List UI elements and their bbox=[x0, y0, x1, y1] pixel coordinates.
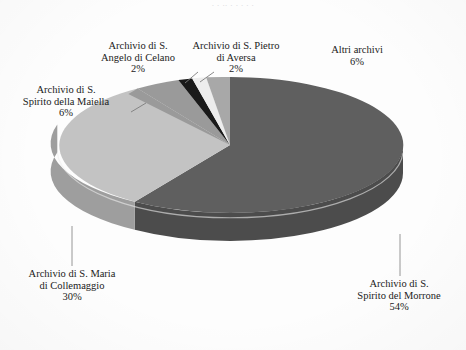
page-canvas: . . .. . . . . . bbox=[0, 0, 466, 350]
slice-label-collemaggio: Archivio di S. Maria di Collemaggio 30% bbox=[7, 268, 137, 303]
slice-label-maiella: Archivio di S. Spirito della Maiella 6% bbox=[2, 84, 130, 119]
slice-label-maiella-pct: 6% bbox=[2, 107, 130, 119]
slice-label-morrone-line1: Archivio di S. bbox=[333, 278, 465, 290]
slice-label-altri-pct: 6% bbox=[295, 56, 419, 68]
slice-label-maiella-line1: Archivio di S. bbox=[2, 84, 130, 96]
slice-label-aversa-line2: di Aversa bbox=[173, 52, 299, 64]
slice-label-morrone-pct: 54% bbox=[333, 301, 465, 313]
slice-label-morrone-line2: Spirito del Morrone bbox=[333, 290, 465, 302]
slice-label-altri-line1: Altri archivi bbox=[295, 44, 419, 56]
slice-label-aversa: Archivio di S. Pietro di Aversa 2% bbox=[173, 40, 299, 75]
slice-label-collemaggio-line2: di Collemaggio bbox=[7, 280, 137, 292]
slice-label-aversa-pct: 2% bbox=[173, 63, 299, 75]
slice-label-collemaggio-pct: 30% bbox=[7, 291, 137, 303]
slice-label-maiella-line2: Spirito della Maiella bbox=[2, 96, 130, 108]
slice-label-morrone: Archivio di S. Spirito del Morrone 54% bbox=[333, 278, 465, 313]
slice-label-aversa-line1: Archivio di S. Pietro bbox=[173, 40, 299, 52]
pie-chart: Archivio di S. Angelo di Celano 2% Archi… bbox=[0, 0, 466, 350]
slice-label-altri: Altri archivi 6% bbox=[295, 44, 419, 67]
slice-label-collemaggio-line1: Archivio di S. Maria bbox=[7, 268, 137, 280]
